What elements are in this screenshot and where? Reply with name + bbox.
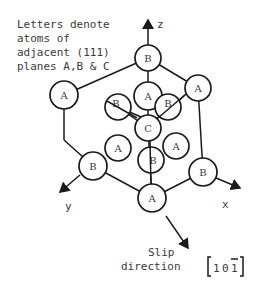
caption-line-4: planes A,B & C — [17, 60, 110, 73]
atom-top: B — [135, 45, 161, 71]
caption-line-1: Letters denote — [17, 18, 110, 31]
atom-lower-center: B — [138, 141, 164, 186]
atom-center: C — [135, 115, 161, 141]
svg-text:B: B — [89, 161, 96, 172]
svg-text:B: B — [199, 167, 206, 178]
z-axis-label: z — [157, 18, 164, 31]
slip-label-line-2: direction — [121, 260, 181, 273]
miller-index: 1 0 1 — [208, 257, 243, 276]
atom-right: B — [189, 158, 217, 186]
svg-text:1: 1 — [231, 262, 238, 275]
atom-upper-left: A — [50, 81, 78, 109]
svg-text:A: A — [59, 90, 68, 101]
svg-text:A: A — [113, 143, 122, 154]
svg-text:B: B — [144, 53, 151, 64]
atom-lower-right: A — [163, 133, 189, 159]
atom-inner-left: B — [105, 94, 137, 120]
atom-left: B — [79, 152, 107, 180]
atom-inner-right: B — [155, 94, 186, 120]
atom-upper-right: A — [185, 75, 211, 101]
fcc-slip-diagram: Letters denote atoms of adjacent (111) p… — [0, 0, 255, 292]
svg-text:A: A — [171, 141, 180, 152]
x-axis-arrow — [216, 178, 240, 188]
slip-label-line-1: Slip — [148, 246, 175, 259]
svg-text:1: 1 — [213, 262, 220, 275]
svg-text:A: A — [147, 193, 156, 204]
x-axis-label: x — [222, 198, 229, 211]
svg-text:C: C — [144, 123, 152, 134]
svg-text:0: 0 — [222, 262, 229, 275]
caption-line-2: atoms of — [17, 32, 70, 45]
y-axis-arrow — [60, 175, 80, 192]
slip-direction-arrow — [166, 216, 188, 248]
atom-lower-left: A — [105, 135, 131, 161]
svg-text:A: A — [193, 83, 202, 94]
caption-line-3: adjacent (111) — [17, 46, 110, 59]
caption: Letters denote atoms of adjacent (111) p… — [17, 18, 110, 73]
atom-bottom: A — [138, 184, 166, 212]
y-axis-label: y — [65, 200, 72, 213]
svg-text:A: A — [143, 91, 152, 102]
